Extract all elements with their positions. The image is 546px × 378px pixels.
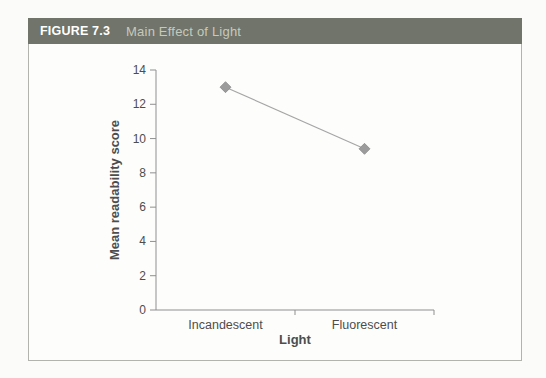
y-axis-title: Mean readability score [107, 120, 122, 260]
y-tick-label: 14 [133, 63, 147, 77]
x-axis-title: Light [279, 332, 311, 347]
x-category-label: Fluorescent [332, 318, 398, 332]
figure-title: Main Effect of Light [126, 24, 241, 39]
figure-box: FIGURE 7.3 Main Effect of Light 02468101… [28, 18, 522, 361]
figure-header: FIGURE 7.3 Main Effect of Light [28, 18, 522, 44]
y-tick-label: 0 [139, 303, 146, 317]
x-category-label: Incandescent [188, 318, 263, 332]
y-tick-label: 4 [139, 234, 146, 248]
y-tick-label: 12 [133, 97, 147, 111]
y-tick-label: 2 [139, 269, 146, 283]
y-tick-label: 10 [133, 132, 147, 146]
data-point-marker [359, 143, 370, 154]
y-tick-label: 6 [139, 200, 146, 214]
figure-label: FIGURE 7.3 [40, 24, 110, 38]
chart-area: 02468101214IncandescentFluorescentLightM… [29, 44, 521, 360]
y-tick-label: 8 [139, 166, 146, 180]
data-line [226, 87, 365, 149]
line-chart: 02468101214IncandescentFluorescentLightM… [29, 44, 521, 360]
data-point-marker [220, 82, 231, 93]
